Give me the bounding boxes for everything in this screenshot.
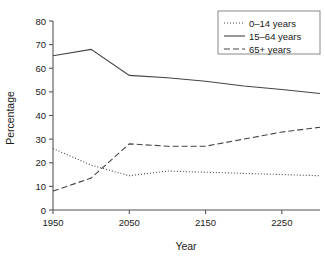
y-tick-label: 60 [35, 63, 46, 74]
series-line-solid [53, 49, 320, 93]
y-tick-label: 10 [35, 181, 46, 192]
y-axis-tick-marks [49, 21, 53, 210]
series-line-dashed [53, 127, 320, 191]
y-tick-label: 20 [35, 157, 46, 168]
x-tick-label: 2050 [119, 217, 140, 228]
y-tick-label: 30 [35, 134, 46, 145]
y-tick-label: 50 [35, 86, 46, 97]
legend: 0–14 years15–64 years65+ years [218, 11, 320, 55]
y-tick-label: 80 [35, 16, 46, 27]
x-axis-tick-labels: 1950205021502250 [42, 217, 292, 228]
x-tick-label: 1950 [42, 217, 63, 228]
y-axis-title: Percentage [4, 91, 16, 145]
y-tick-label: 40 [35, 110, 46, 121]
x-axis-group: 1950205021502250 [42, 210, 320, 228]
x-tick-label: 2150 [195, 217, 216, 228]
data-series-group [53, 49, 320, 191]
y-tick-label: 0 [41, 205, 46, 216]
legend-label: 15–64 years [249, 31, 302, 42]
chart-canvas: 01020304050607080 1950205021502250 Perce… [0, 0, 325, 258]
x-axis-title: Year [175, 240, 197, 252]
series-line-dotted [53, 149, 320, 176]
x-axis-tick-marks [53, 210, 282, 214]
y-axis-group: 01020304050607080 [35, 16, 53, 216]
x-tick-label: 2250 [271, 217, 292, 228]
population-age-structure-chart: 01020304050607080 1950205021502250 Perce… [0, 0, 325, 258]
legend-label: 65+ years [249, 44, 291, 55]
y-axis-tick-labels: 01020304050607080 [35, 16, 46, 216]
legend-label: 0–14 years [249, 18, 296, 29]
y-tick-label: 70 [35, 39, 46, 50]
